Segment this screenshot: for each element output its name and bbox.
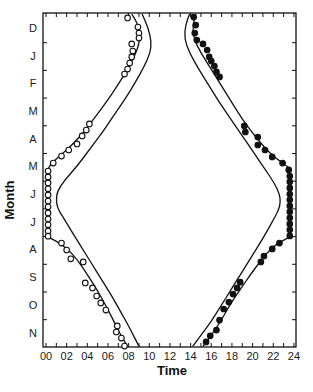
filled-data-point — [203, 339, 209, 345]
filled-data-point — [261, 253, 267, 259]
open-data-point — [87, 121, 93, 127]
y-tick-label: S — [29, 271, 36, 283]
open-data-point — [122, 343, 128, 349]
x-axis-tick-labels: 00020406081012141618202224 — [40, 350, 300, 362]
filled-data-point — [200, 41, 206, 47]
x-tick-label: 18 — [226, 350, 238, 362]
y-tick-label: O — [29, 299, 38, 311]
filled-data-point — [194, 37, 200, 43]
filled-data-point — [277, 240, 283, 246]
open-data-point — [45, 168, 51, 174]
filled-data-point — [287, 233, 293, 239]
y-tick-label: A — [29, 133, 37, 145]
x-tick-label: 10 — [143, 350, 155, 362]
open-data-point — [103, 307, 109, 313]
open-data-point — [129, 41, 135, 47]
x-tick-label: 00 — [40, 350, 52, 362]
filled-data-point — [204, 47, 210, 53]
open-data-point — [45, 180, 51, 186]
open-data-point — [83, 127, 89, 133]
x-tick-label: 20 — [246, 350, 258, 362]
x-tick-label: 12 — [164, 350, 176, 362]
filled-data-point — [212, 63, 218, 69]
open-data-point — [68, 256, 74, 262]
open-data-point — [74, 141, 80, 147]
open-data-point — [129, 54, 135, 60]
filled-data-point — [242, 123, 248, 129]
filled-data-point — [230, 291, 236, 297]
filled-data-point — [269, 246, 275, 252]
y-axis-tick-labels: DJFMAMJJASON — [28, 22, 37, 339]
filled-data-point — [255, 134, 261, 140]
x-tick-label: 02 — [61, 350, 73, 362]
open-data-point — [136, 35, 142, 41]
x-tick-label: 24 — [288, 350, 300, 362]
plot-frame — [43, 13, 296, 347]
y-tick-label: M — [28, 160, 37, 172]
filled-data-point — [214, 327, 220, 333]
open-data-point — [45, 192, 51, 198]
y-axis-title: Month — [2, 180, 17, 219]
filled-data-point — [193, 22, 199, 28]
open-data-point — [66, 147, 72, 153]
open-data-point — [45, 233, 51, 239]
y-tick-label: N — [29, 327, 37, 339]
filled-data-point — [192, 30, 198, 36]
y-tick-label: A — [29, 243, 37, 255]
x-tick-label: 06 — [102, 350, 114, 362]
y-tick-label: J — [30, 50, 36, 62]
y-tick-label: M — [28, 105, 37, 117]
open-data-point — [45, 222, 51, 228]
open-data-point — [80, 259, 86, 265]
x-tick-label: 14 — [184, 350, 196, 362]
open-data-point — [45, 204, 51, 210]
x-tick-label: 04 — [81, 350, 93, 362]
filled-data-point — [269, 154, 275, 160]
filled-data-point — [217, 317, 223, 323]
x-tick-label: 22 — [267, 350, 279, 362]
filled-data-point — [287, 221, 293, 227]
y-axis-ticks — [43, 43, 296, 320]
open-data-point — [45, 186, 51, 192]
twilight-activity-chart: 00020406081012141618202224 DJFMAMJJASON … — [0, 0, 313, 392]
filled-data-point — [287, 191, 293, 197]
open-data-point — [94, 293, 100, 299]
open-data-point — [119, 335, 125, 341]
open-data-point — [127, 60, 133, 66]
filled-data-point — [287, 185, 293, 191]
open-data-point — [125, 15, 131, 21]
filled-data-point — [287, 227, 293, 233]
open-data-point — [45, 210, 51, 216]
y-tick-label: J — [30, 216, 36, 228]
x-axis-ticks — [46, 13, 294, 347]
filled-data-point — [287, 173, 293, 179]
filled-data-point — [243, 129, 249, 135]
filled-data-point — [287, 209, 293, 215]
filled-data-point — [287, 197, 293, 203]
open-data-point — [113, 329, 119, 335]
filled-data-point — [234, 285, 240, 291]
open-data-point — [50, 160, 56, 166]
open-data-point — [122, 71, 128, 77]
x-tick-label: 16 — [205, 350, 217, 362]
open-data-point — [59, 240, 65, 246]
filled-data-point — [226, 299, 232, 305]
filled-data-point — [286, 167, 292, 173]
open-data-point — [135, 24, 141, 30]
open-data-point — [90, 285, 96, 291]
open-data-point — [45, 198, 51, 204]
filled-data-point — [287, 179, 293, 185]
fitted-curve — [57, 14, 151, 346]
y-tick-label: F — [30, 77, 37, 89]
filled-data-point — [217, 74, 223, 80]
open-data-point — [82, 280, 88, 286]
filled-data-point — [258, 259, 264, 265]
open-data-point — [64, 247, 70, 253]
y-tick-label: D — [29, 22, 37, 34]
open-data-point — [114, 323, 120, 329]
filled-data-point — [280, 160, 286, 166]
filled-data-point — [221, 306, 227, 312]
open-data-point — [79, 133, 85, 139]
filled-data-point — [287, 203, 293, 209]
filled-data-point — [262, 147, 268, 153]
